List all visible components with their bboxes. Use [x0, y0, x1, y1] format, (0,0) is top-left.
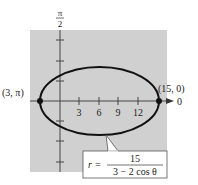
point-3-pi — [37, 98, 43, 104]
polar-axis-label: 0 — [177, 96, 182, 107]
point-label-3-pi: (3, π) — [2, 87, 24, 99]
equation-numerator: 15 — [130, 153, 140, 164]
polar-graph-figure: 3 6 9 12 0 π 2 (3, π) (15, 0) r = 15 3 −… — [0, 0, 198, 185]
x-tick-label-3: 3 — [77, 107, 82, 118]
x-tick-label-6: 6 — [97, 107, 102, 118]
equation-lhs: r = — [88, 159, 101, 170]
equation-denominator: 3 − 2 cos θ — [113, 166, 157, 177]
point-label-15-0: (15, 0) — [158, 83, 185, 95]
vertical-axis-label-numerator: π — [58, 8, 63, 18]
x-tick-label-9: 9 — [116, 107, 121, 118]
polar-axis-arrow-icon — [166, 98, 174, 104]
x-tick-label-12: 12 — [133, 107, 143, 118]
point-15-0 — [156, 98, 162, 104]
vertical-axis-label-denominator: 2 — [58, 19, 63, 29]
